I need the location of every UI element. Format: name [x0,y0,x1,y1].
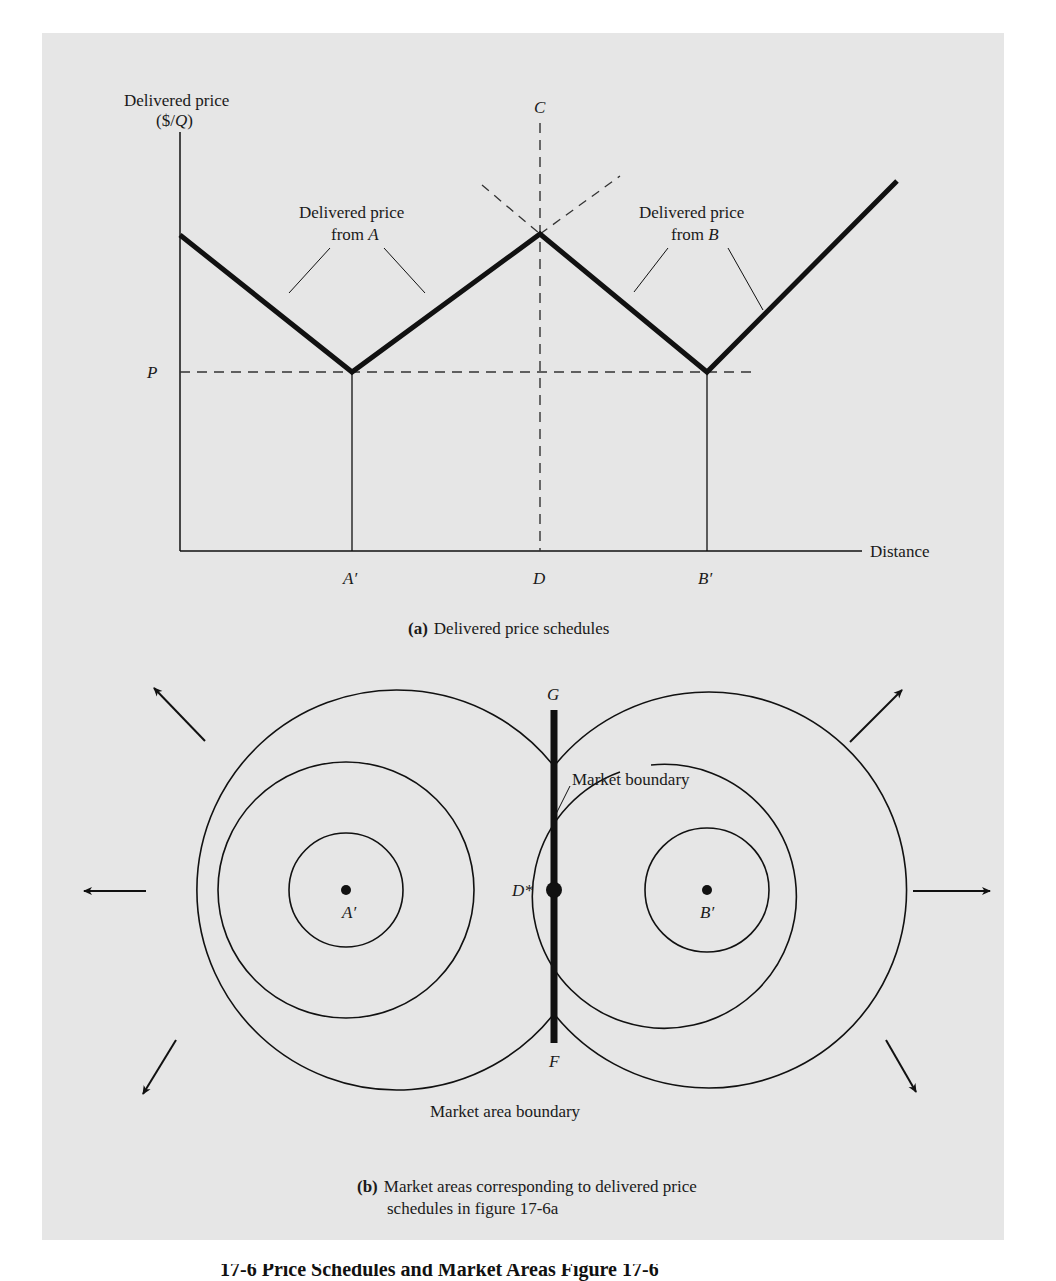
market-boundary-label: Market boundary [572,770,690,789]
price-level-label: P [146,363,157,382]
label-d-star: D* [511,881,533,900]
center-b-dot [702,885,712,895]
arrow-upper-left [154,688,205,741]
center-a-label: A′ [341,903,356,922]
center-a-dot [341,885,351,895]
market-area-b: B′ [532,692,906,1088]
arrow-lower-right [886,1040,916,1092]
label-f: F [548,1052,560,1071]
annotation-a-line1: Delivered price [299,203,404,222]
center-b-label: B′ [700,903,714,922]
market-area-a: A′ [197,690,553,1090]
delivered-price-schedule [180,181,897,372]
d-star-point [546,882,562,898]
annotation-a-leader-right [384,248,425,293]
annotation-b-leader-left [634,248,668,292]
y-axis-unit: ($/Q) [156,111,193,130]
annotation-b-line2: from B [671,225,719,244]
tick-b-prime: B′ [698,569,712,588]
extension-b-dashed [540,176,620,234]
point-c-label: C [534,98,546,117]
annotation-a-line2: from A [331,225,379,244]
panel-a: Delivered price ($/Q) Distance P C Deliv… [124,91,929,638]
arrow-lower-left [143,1040,176,1094]
y-axis-label: Delivered price [124,91,229,110]
tick-a-prime: A′ [342,569,357,588]
panel-b: A′ B′ G F D* Market boundary [84,685,990,1218]
market-boundary-leader [556,786,570,814]
market-area-boundary-label: Market area boundary [430,1102,581,1121]
annotation-b-leader-right [728,248,763,310]
arrow-upper-right [850,690,902,742]
extension-a-dashed [482,185,540,234]
x-axis-label: Distance [870,542,929,561]
annotation-a-leader-left [289,248,330,293]
caption-b-line2: schedules in figure 17-6a [387,1199,559,1218]
annotation-b-line1: Delivered price [639,203,744,222]
caption-b-line1: (b)Market areas corresponding to deliver… [357,1177,697,1196]
tick-d: D [532,569,546,588]
caption-a: (a)Delivered price schedules [408,619,609,638]
label-g: G [547,685,559,704]
